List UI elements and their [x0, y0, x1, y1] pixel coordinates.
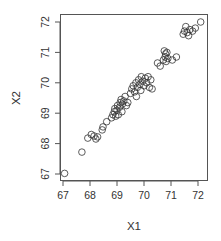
y-axis: 676869707172: [39, 16, 60, 180]
scatter-plot: 676869707172 676869707172 X1 X2: [0, 0, 221, 241]
x-axis: 676869707172: [57, 181, 204, 201]
data-points: [61, 19, 204, 177]
x-tick-label: 72: [192, 189, 204, 201]
x-tick-label: 67: [57, 189, 69, 201]
y-tick-label: 70: [39, 77, 51, 89]
data-point: [79, 149, 86, 156]
y-tick-label: 72: [39, 16, 51, 28]
x-tick-label: 69: [111, 189, 123, 201]
data-point: [61, 170, 68, 177]
data-point: [197, 19, 204, 26]
y-tick-label: 69: [39, 107, 51, 119]
y-tick-label: 71: [39, 46, 51, 58]
data-point: [85, 135, 92, 142]
y-axis-title: X2: [10, 91, 22, 105]
x-tick-label: 71: [165, 189, 177, 201]
x-tick-label: 68: [84, 189, 96, 201]
x-tick-label: 70: [138, 189, 150, 201]
y-tick-label: 68: [39, 138, 51, 150]
y-tick-label: 67: [39, 168, 51, 180]
x-axis-title: X1: [127, 220, 141, 232]
